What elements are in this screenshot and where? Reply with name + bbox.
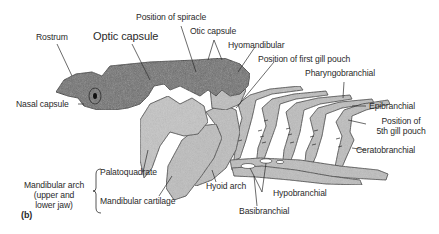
label-otic-capsule: Otic capsule xyxy=(190,27,236,36)
anatomy-diagram: Rostrum Optic capsule Position of spirac… xyxy=(0,0,439,234)
label-position-first-gill-pouch: Position of first gill pouch xyxy=(258,55,350,64)
label-fifth-gill-line2: 5th gill pouch xyxy=(376,126,425,136)
panel-label: (b) xyxy=(21,211,32,220)
label-position-fifth-gill-pouch: Position of 5th gill pouch xyxy=(365,117,437,137)
label-fifth-gill-line1: Position of xyxy=(381,116,420,126)
label-hyomandibular: Hyomandibular xyxy=(228,41,285,50)
label-ceratobranchial: Ceratobranchial xyxy=(356,146,415,155)
label-optic-capsule: Optic capsule xyxy=(93,31,158,42)
label-nasal-capsule: Nasal capsule xyxy=(16,100,69,109)
label-mandibular-arch-line2: (upper and xyxy=(34,190,75,200)
label-hypobranchial: Hypobranchial xyxy=(273,189,327,198)
label-position-of-spiracle: Position of spiracle xyxy=(136,13,206,22)
label-mandibular-arch: Mandibular arch (upper and lower jaw) xyxy=(16,181,92,211)
label-epibranchial: Epibranchial xyxy=(369,102,415,111)
label-mandibular-arch-line1: Mandibular arch xyxy=(24,180,84,190)
nasal-opening xyxy=(93,93,97,99)
label-mandibular-cartilage: Mandibular cartilage xyxy=(100,197,175,206)
label-hyoid-arch: Hyoid arch xyxy=(206,182,246,191)
label-mandibular-arch-line3: lower jaw) xyxy=(35,200,73,210)
label-palatoquadrate: Palatoquadrate xyxy=(100,168,157,177)
label-rostrum: Rostrum xyxy=(36,33,68,42)
label-basibranchial: Basibranchial xyxy=(239,207,289,216)
label-pharyngobranchial: Pharyngobranchial xyxy=(305,69,375,78)
